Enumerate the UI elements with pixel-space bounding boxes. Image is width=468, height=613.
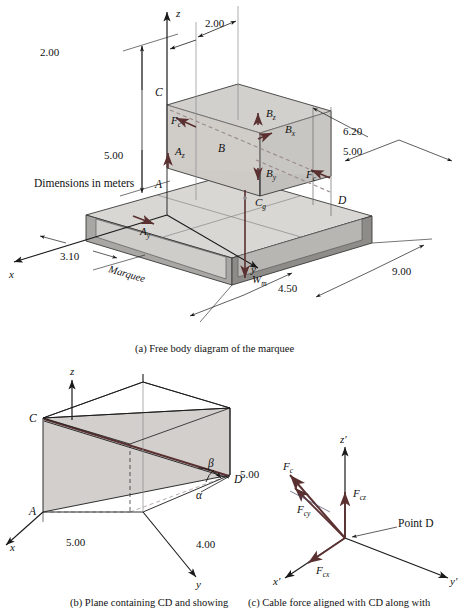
dim-3.10-label: 3.10 bbox=[60, 250, 80, 262]
force-Fcy-label-c: Fcy bbox=[296, 503, 311, 518]
dim-6.20-label: 6.20 bbox=[343, 125, 363, 137]
panel-b: z x y C A D α β 5.00 5.00 4.00 (b) Plane… bbox=[6, 365, 260, 609]
x-axis-label-b: x bbox=[9, 541, 15, 553]
dim-arrow-2b-left bbox=[198, 31, 212, 37]
dim-arrow-450-left bbox=[190, 295, 244, 316]
z-axis-label-b: z bbox=[69, 365, 75, 377]
dim-b-5.00-x-label: 5.00 bbox=[66, 536, 86, 548]
panel-b-top-l bbox=[43, 382, 143, 418]
dim-5.00-right-label: 5.00 bbox=[343, 145, 363, 157]
force-Fc-label-c: Fc bbox=[282, 460, 294, 475]
dim-5.00-height-label: 5.00 bbox=[104, 149, 124, 161]
z-prime-label: z′ bbox=[339, 433, 347, 445]
force-Fcz-label-c: Fcz bbox=[352, 487, 366, 502]
x-axis-label-a: x bbox=[8, 268, 14, 280]
centroid-marker bbox=[243, 196, 247, 200]
engineering-figure: z y x 2.00 2.00 5.00 6.20 5.00 3.10 4.50… bbox=[0, 0, 468, 613]
y-prime-label: y′ bbox=[449, 575, 458, 587]
dim-b-5.00-height-label: 5.00 bbox=[240, 468, 260, 480]
dim-b-4.00-y-label: 4.00 bbox=[196, 538, 216, 550]
point-D-label-a: D bbox=[337, 194, 347, 206]
marquee-body-label: Marquee bbox=[106, 263, 146, 284]
dim-2.00-left-label: 2.00 bbox=[40, 46, 60, 58]
arrow-Fcx-c bbox=[308, 538, 345, 563]
y-axis-label-b: y bbox=[195, 578, 201, 590]
panel-b-caption: (b) Plane containing CD and showing bbox=[70, 597, 229, 609]
dim-arrow-500r-out bbox=[399, 140, 452, 161]
panel-a: z y x 2.00 2.00 5.00 6.20 5.00 3.10 4.50… bbox=[8, 6, 452, 355]
x-prime-label: x′ bbox=[272, 575, 281, 587]
y-axis-b bbox=[143, 512, 196, 577]
dimensions-note: Dimensions in meters bbox=[34, 177, 135, 189]
point-C-label-a: C bbox=[155, 86, 163, 98]
dim-9.00-label: 9.00 bbox=[392, 265, 412, 277]
force-Fcx-label-c: Fcx bbox=[315, 564, 330, 579]
leader-point-D bbox=[352, 527, 397, 537]
cd-plane bbox=[167, 105, 331, 176]
ext-line-5-top bbox=[123, 34, 178, 51]
ext-line-450 bbox=[200, 285, 232, 322]
dim-2.00-right-label: 2.00 bbox=[205, 17, 225, 29]
angle-beta-label: β bbox=[207, 457, 214, 470]
figure-canvas: z y x 2.00 2.00 5.00 6.20 5.00 3.10 4.50… bbox=[0, 0, 468, 613]
point-D-label-c: Point D bbox=[398, 517, 433, 529]
point-A-label-a: A bbox=[154, 178, 163, 190]
dim-arrow-900-left bbox=[316, 270, 373, 297]
z-axis-label-a: z bbox=[175, 7, 181, 19]
panel-b-top-r bbox=[143, 382, 230, 408]
panel-a-caption: (a) Free body diagram of the marquee bbox=[135, 343, 295, 355]
point-B-label-a: B bbox=[218, 142, 225, 154]
angle-alpha-label: α bbox=[196, 489, 203, 501]
panel-c: z′ x′ y′ Fc Fcz Fcy Fcx Point D (c) Cabl… bbox=[248, 433, 458, 609]
dim-arrow-310-right bbox=[93, 251, 117, 258]
ext-line-900 bbox=[372, 239, 432, 243]
point-C-label-b: C bbox=[29, 412, 37, 424]
panel-c-caption: (c) Cable force aligned with CD along wi… bbox=[248, 597, 431, 609]
dim-4.50-label: 4.50 bbox=[278, 282, 298, 294]
dim-arrow-310-left bbox=[40, 236, 66, 243]
dim-arrow-2a-left bbox=[170, 40, 196, 49]
point-A-label-b: A bbox=[28, 505, 37, 517]
y-prime-axis bbox=[345, 538, 448, 578]
